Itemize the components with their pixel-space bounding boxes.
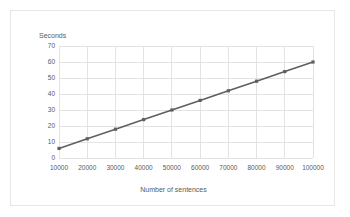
chart-container: Seconds Number of sentences 010203040506… xyxy=(10,10,335,206)
data-point-marker xyxy=(199,99,202,102)
data-point-marker xyxy=(255,80,258,83)
chart-plot-svg xyxy=(11,11,334,205)
data-point-marker xyxy=(142,118,145,121)
data-point-marker xyxy=(170,108,173,111)
y-tick-label: 50 xyxy=(33,74,55,81)
data-point-marker xyxy=(311,60,314,63)
data-point-marker xyxy=(57,147,60,150)
y-tick-label: 0 xyxy=(33,154,55,161)
y-tick-label: 40 xyxy=(33,90,55,97)
data-series-line xyxy=(59,62,313,148)
y-tick-label: 10 xyxy=(33,138,55,145)
y-tick-label: 20 xyxy=(33,122,55,129)
y-axis-title: Seconds xyxy=(39,32,66,39)
y-tick-label: 70 xyxy=(33,42,55,49)
x-axis-title: Number of sentences xyxy=(11,186,336,193)
y-tick-label: 30 xyxy=(33,106,55,113)
series-polyline xyxy=(59,62,313,148)
data-point-marker xyxy=(227,89,230,92)
data-point-marker xyxy=(114,128,117,131)
data-point-marker xyxy=(86,137,89,140)
y-tick-label: 60 xyxy=(33,58,55,65)
vertical-gridlines xyxy=(59,46,313,158)
x-tick-label: 100000 xyxy=(296,164,330,171)
horizontal-gridlines xyxy=(59,46,313,158)
data-point-marker xyxy=(283,70,286,73)
